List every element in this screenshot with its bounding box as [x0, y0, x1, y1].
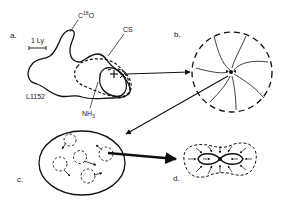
star-formation-diagram: a. 1 Ly C18O CS	[0, 0, 287, 201]
panel-d: d.	[173, 143, 256, 183]
fragmenting-cloud	[39, 131, 125, 195]
fragment-motion-arrows	[62, 143, 102, 176]
panel-a-label: a.	[10, 31, 17, 40]
nh3-contour	[100, 68, 127, 97]
c18o-label: C18O	[78, 10, 95, 19]
scale-bar-label: 1 Ly	[31, 37, 44, 45]
nh3-label: NH3	[82, 110, 95, 119]
panel-d-label: d.	[173, 174, 180, 183]
scale-bar: 1 Ly	[29, 37, 46, 50]
panel-c: c.	[17, 131, 125, 195]
arrow-b-to-c	[126, 76, 228, 134]
cs-contour	[75, 59, 130, 97]
panel-a: a. 1 Ly C18O CS	[10, 10, 133, 119]
panel-b: b.	[174, 30, 272, 112]
panel-b-label: b.	[174, 30, 181, 39]
fragment-cores	[53, 134, 113, 183]
panel-c-label: c.	[17, 175, 23, 184]
cs-label: CS	[123, 26, 133, 33]
binary-center	[218, 157, 222, 161]
arrow-c-to-d	[108, 153, 176, 159]
arrow-a-to-b	[126, 72, 190, 74]
core-center	[226, 70, 236, 74]
cloud-name-label: L1152	[26, 93, 45, 100]
